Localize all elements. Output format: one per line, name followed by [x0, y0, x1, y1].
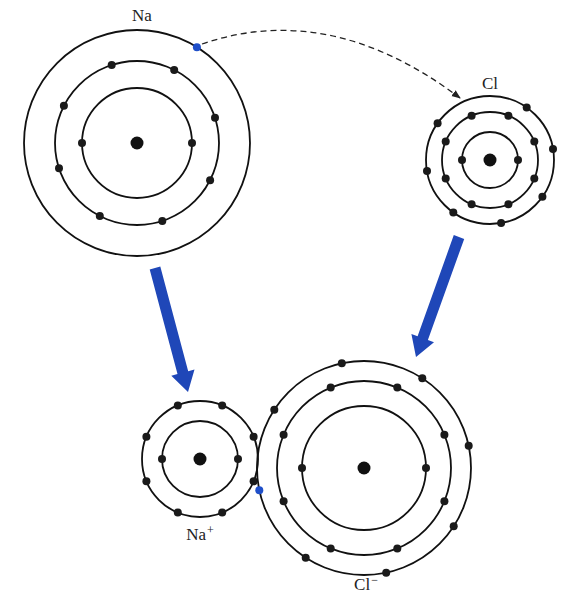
cl-minus-electron [327, 384, 335, 392]
label-cl-minus-charge: − [371, 573, 378, 587]
cl-electron [434, 119, 442, 127]
cl-minus-electron [280, 497, 288, 505]
cl-minus-electron [440, 431, 448, 439]
na-electron [96, 212, 104, 220]
ionic-bond-diagram: Na Cl Na+ Cl− [0, 0, 564, 607]
diagram-canvas [0, 0, 564, 607]
cl-minus-electron [418, 374, 426, 382]
na-plus-electron [250, 477, 258, 485]
cl-nucleus [484, 154, 497, 167]
na-plus-electron [218, 509, 226, 517]
label-cl-text: Cl [482, 74, 498, 93]
na-electron [170, 66, 178, 74]
na-plus-electron [174, 509, 182, 517]
cl-electron [514, 156, 522, 164]
cl-electron [530, 174, 538, 182]
cl-minus-transferred-electron [255, 486, 263, 494]
cl-electron [538, 193, 546, 201]
cl-electron [449, 208, 457, 216]
cl-electron [523, 104, 531, 112]
cl-minus-electron [298, 464, 306, 472]
cl-electron [442, 138, 450, 146]
label-na-plus-text: Na [186, 525, 206, 544]
na-electron [55, 164, 63, 172]
cl-electron [504, 200, 512, 208]
cl-minus-nucleus [358, 462, 371, 475]
cl-minus-electron [465, 442, 473, 450]
na-plus-electron [174, 401, 182, 409]
na-plus-electron [158, 455, 166, 463]
na-electron [108, 61, 116, 69]
cl-electron [468, 200, 476, 208]
cl-minus-electron [338, 359, 346, 367]
na-electron [211, 114, 219, 122]
label-cl-minus-text: Cl [354, 575, 370, 594]
na-plus-electron [250, 433, 258, 441]
cl-minus-electron [270, 406, 278, 414]
na-electron [158, 217, 166, 225]
cl-minus-electron [393, 544, 401, 552]
cl-electron [442, 174, 450, 182]
label-na-text: Na [132, 6, 152, 25]
na-nucleus [131, 137, 144, 150]
cl-electron [549, 145, 557, 153]
cl-minus-electron [327, 544, 335, 552]
cl-minus-electron [440, 497, 448, 505]
na-plus-electron [142, 477, 150, 485]
cl-electron [530, 138, 538, 146]
label-cl: Cl [482, 74, 498, 94]
na-electron [206, 176, 214, 184]
na-transferred-electron [193, 43, 201, 51]
electron-transfer-arc [202, 30, 460, 98]
na-to-na-plus-arrow [150, 267, 195, 392]
cl-electron [423, 167, 431, 175]
label-cl-minus: Cl− [354, 573, 378, 595]
na-electron [188, 139, 196, 147]
cl-electron [504, 112, 512, 120]
label-na: Na [132, 6, 152, 26]
na-electron [78, 139, 86, 147]
na-electron [60, 102, 68, 110]
cl-electron [458, 156, 466, 164]
cl-minus-electron [280, 431, 288, 439]
na-plus-electron [142, 433, 150, 441]
cl-to-cl-minus-arrow [411, 235, 464, 357]
cl-minus-electron [382, 569, 390, 577]
cl-minus-electron [422, 464, 430, 472]
label-na-plus: Na+ [186, 523, 214, 545]
na-plus-electron [234, 455, 242, 463]
na-plus-nucleus [194, 453, 207, 466]
cl-minus-electron [393, 384, 401, 392]
label-na-plus-charge: + [207, 523, 214, 537]
cl-electron [497, 219, 505, 227]
cl-minus-electron [450, 522, 458, 530]
cl-electron [468, 112, 476, 120]
cl-minus-electron [302, 554, 310, 562]
na-plus-electron [218, 401, 226, 409]
